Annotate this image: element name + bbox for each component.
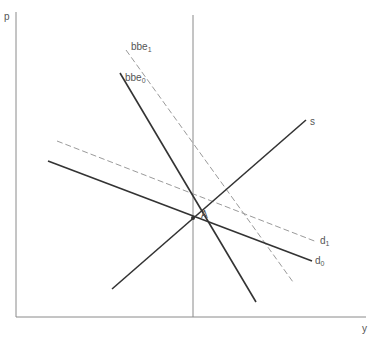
d0-label: d0 bbox=[315, 256, 324, 267]
d0-label-sub: 0 bbox=[321, 260, 325, 267]
bbe1-label: bbe1 bbox=[131, 42, 152, 53]
point-a-label: A bbox=[201, 210, 208, 220]
d1-curve bbox=[57, 141, 317, 242]
bbe0-curve bbox=[120, 73, 256, 302]
d0-curve bbox=[48, 161, 312, 261]
d1-label: d1 bbox=[320, 236, 329, 247]
bbe1-label-sub: 1 bbox=[148, 46, 152, 53]
bbe0-label: bbe0 bbox=[125, 73, 146, 84]
s-label: s bbox=[310, 117, 315, 127]
bbe0-label-base: bbe bbox=[125, 72, 142, 83]
diagram-canvas bbox=[0, 0, 377, 342]
d1-label-sub: 1 bbox=[326, 240, 330, 247]
x-axis-label: y bbox=[362, 324, 367, 334]
bbe1-label-base: bbe bbox=[131, 41, 148, 52]
equilibrium-point-a bbox=[191, 216, 195, 220]
s-curve bbox=[112, 120, 306, 289]
bbe0-label-sub: 0 bbox=[142, 77, 146, 84]
bbe1-curve bbox=[126, 50, 293, 282]
y-axis-label: p bbox=[4, 12, 10, 22]
